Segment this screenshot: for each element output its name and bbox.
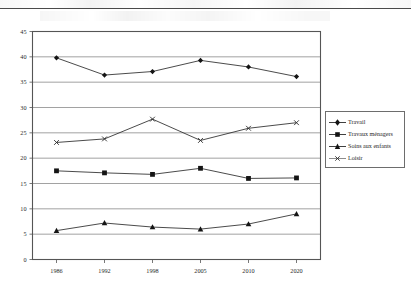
svg-text:35: 35 [20, 78, 26, 85]
svg-text:15: 15 [20, 180, 26, 187]
svg-text:2005: 2005 [194, 267, 206, 274]
triangle-marker-icon [329, 141, 346, 152]
svg-text:0: 0 [23, 256, 26, 263]
x-axis-ticks: 198619921998200520102020 [50, 260, 302, 274]
legend-item-soins-aux-enfants: Soins aux enfants [329, 140, 401, 152]
legend-label: Travail [348, 117, 365, 128]
grid-lines [33, 32, 321, 235]
svg-text:30: 30 [20, 104, 26, 111]
svg-text:2020: 2020 [290, 267, 302, 274]
y-axis-ticks: 051015202530354045 [20, 28, 32, 263]
legend-item-travaux-menagers: Travaux ménagers [329, 128, 401, 140]
svg-text:25: 25 [20, 129, 26, 136]
svg-text:5: 5 [23, 230, 26, 237]
square-marker-icon [329, 129, 346, 140]
legend-label: Soins aux enfants [348, 141, 391, 152]
svg-text:1986: 1986 [50, 267, 62, 274]
legend-item-travail: Travail [329, 116, 401, 128]
svg-text:2010: 2010 [242, 267, 254, 274]
chart-page: 051015202530354045 198619921998200520102… [0, 0, 411, 291]
diamond-marker-icon [329, 117, 346, 128]
svg-text:40: 40 [20, 53, 26, 60]
legend-label: Loisir [348, 153, 363, 164]
svg-text:45: 45 [20, 28, 26, 35]
svg-text:20: 20 [20, 154, 26, 161]
legend-label: Travaux ménagers [348, 129, 393, 140]
svg-text:1992: 1992 [98, 267, 110, 274]
chart-legend: Travail Travaux ménagers Soins aux enfan… [325, 111, 405, 168]
legend-item-loisir: Loisir [329, 152, 401, 164]
cross-marker-icon [329, 153, 346, 164]
svg-text:10: 10 [20, 205, 26, 212]
svg-text:1998: 1998 [146, 267, 158, 274]
